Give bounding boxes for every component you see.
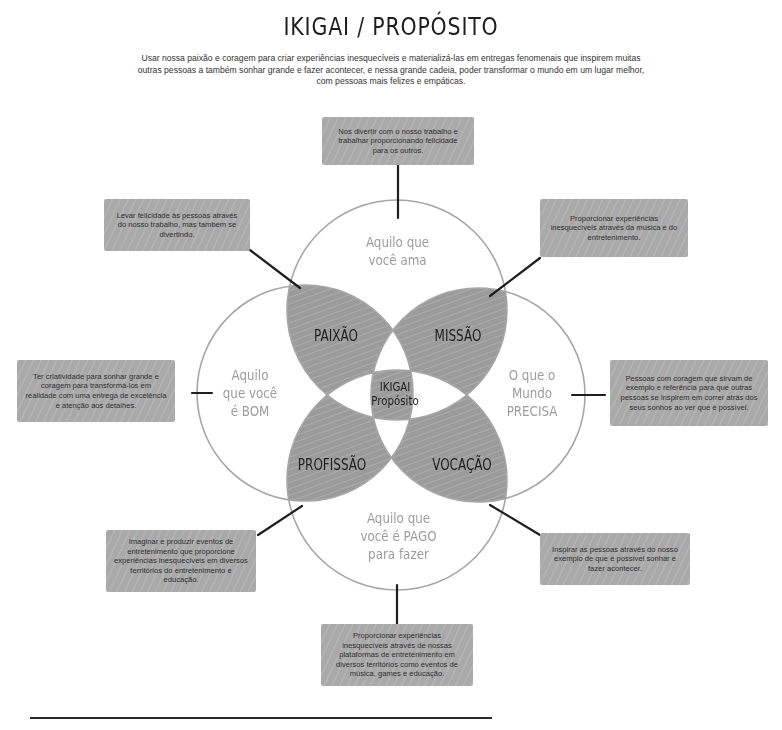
circle-label-bottom: Aquilo que você é PAGO para fazer — [345, 509, 451, 563]
circle-label-left: Aquilo que você é BOM — [212, 366, 289, 420]
box-left: Ter criatividade para sonhar grande e co… — [17, 360, 175, 422]
center-label-line1: IKIGAI — [361, 380, 429, 394]
circle-label-top-line2: você ama — [349, 251, 447, 269]
box-top: Nos divertir com o nosso trabalho e trab… — [322, 117, 474, 165]
circle-label-bottom-line3: para fazer — [345, 545, 451, 563]
label-profissao: PROFISSÃO — [292, 456, 372, 474]
circle-label-left-line1: Aquilo — [212, 366, 289, 384]
label-vocacao: VOCAÇÃO — [422, 456, 502, 474]
circle-label-right-line3: PRECISA — [498, 402, 566, 420]
circle-label-bottom-line2: você é PAGO — [345, 527, 451, 545]
circle-label-left-line3: é BOM — [212, 402, 289, 420]
label-missao: MISSÃO — [426, 327, 490, 345]
box-top-left: Levar felicidade às pessoas através do n… — [104, 199, 250, 251]
bottom-divider — [30, 717, 492, 719]
circle-label-right-line1: O que o — [498, 366, 566, 384]
box-bottom: Proporcionar experiências inesquecíveis … — [321, 624, 473, 686]
box-top-right: Proporcionar experiências inesquecíveis … — [540, 199, 688, 257]
circle-label-bottom-line1: Aquilo que — [345, 509, 451, 527]
label-paixao: PAIXÃO — [304, 327, 368, 345]
circle-label-right: O que o Mundo PRECISA — [498, 366, 566, 420]
circle-label-right-line2: Mundo — [498, 384, 566, 402]
box-right: Pessoas com coragem que sirvam de exempl… — [610, 360, 768, 426]
box-bottom-left: Imaginar e produzir eventos de entreteni… — [106, 530, 256, 592]
center-label-line2: Propósito — [361, 394, 429, 408]
circle-label-top-line1: Aquilo que — [349, 233, 447, 251]
label-ikigai-center: IKIGAI Propósito — [361, 380, 429, 408]
box-bottom-right: Inspirar as pessoas através do nosso exe… — [540, 533, 690, 585]
circle-label-top: Aquilo que você ama — [349, 233, 447, 269]
circle-label-left-line2: que você — [212, 384, 289, 402]
